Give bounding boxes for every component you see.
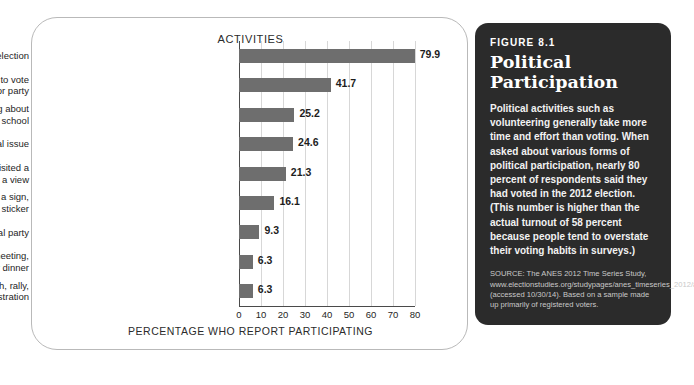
category-label: Wore a button, posted a sign,or displaye… bbox=[0, 191, 29, 214]
bar bbox=[239, 225, 259, 239]
bar-row: 9.3 bbox=[239, 225, 415, 239]
category-label: Attended a political rally, meeting,spee… bbox=[0, 250, 29, 273]
category-label-line: Wore a button, posted a sign, bbox=[0, 191, 29, 203]
bar-row: 25.2 bbox=[239, 108, 415, 122]
category-label: Signed a petition about a political or s… bbox=[0, 138, 29, 150]
category-label-line: an issue facing one's community or schoo… bbox=[0, 115, 29, 127]
x-axis-line bbox=[239, 306, 415, 307]
category-label-line: or demonstration bbox=[0, 291, 29, 303]
category-label-line: Attended a political rally, meeting, bbox=[0, 250, 29, 262]
figure-number: FIGURE 8.1 bbox=[490, 37, 656, 48]
bar-value-label: 9.3 bbox=[264, 224, 279, 236]
category-label-line: Signed a petition about a political or s… bbox=[0, 138, 29, 150]
bar-row: 21.3 bbox=[239, 167, 415, 181]
bar bbox=[239, 49, 415, 63]
bar-row: 16.1 bbox=[239, 196, 415, 210]
bar-value-label: 6.3 bbox=[258, 254, 273, 266]
category-label: Joined a protest march, rally,or demonst… bbox=[0, 280, 29, 303]
x-tick-50: 50 bbox=[344, 309, 355, 320]
x-tick-60: 60 bbox=[366, 309, 377, 320]
x-tick-30: 30 bbox=[300, 309, 311, 320]
bar bbox=[239, 284, 253, 298]
bar-value-label: 41.7 bbox=[336, 77, 356, 89]
gridline-80 bbox=[415, 41, 416, 306]
category-label-line: Joined a protest march, rally, bbox=[0, 280, 29, 292]
category-label: Attempted to persuade others to votefor … bbox=[0, 74, 29, 97]
x-tick-40: 40 bbox=[322, 309, 333, 320]
category-label: Voted in a general election bbox=[0, 50, 29, 62]
category-label-line: Attempted to persuade others to vote bbox=[0, 74, 29, 86]
figure-title-line-2: Participation bbox=[490, 72, 656, 92]
figure-title: Political Participation bbox=[490, 52, 656, 92]
figure-source-note: SOURCE: The ANES 2012 Time Series Study,… bbox=[490, 269, 656, 311]
category-label-line: for or against a candidate or party bbox=[0, 85, 29, 97]
x-tick-70: 70 bbox=[388, 309, 399, 320]
bar-row: 79.9 bbox=[239, 49, 415, 63]
bar-row: 6.3 bbox=[239, 255, 415, 269]
x-axis-tick-labels: 01020304050607080 bbox=[239, 309, 415, 323]
category-label-line: or displayed a bumper sticker bbox=[0, 203, 29, 215]
x-tick-0: 0 bbox=[236, 309, 241, 320]
bar-value-label: 21.3 bbox=[291, 166, 311, 178]
bar-row: 41.7 bbox=[239, 78, 415, 92]
category-label-line: Attended local community meeting about bbox=[0, 103, 29, 115]
bar bbox=[239, 78, 331, 92]
figure-body-text: Political activities such as volunteerin… bbox=[490, 102, 656, 258]
category-label-line: speech, or dinner bbox=[0, 262, 29, 274]
x-tick-20: 20 bbox=[278, 309, 289, 320]
bar-value-label: 6.3 bbox=[258, 283, 273, 295]
x-tick-10: 10 bbox=[256, 309, 267, 320]
bar bbox=[239, 167, 286, 181]
bar bbox=[239, 255, 253, 269]
bar bbox=[239, 196, 274, 210]
category-label: Telephoned, wrote a letter to, or visite… bbox=[0, 162, 29, 185]
bar-value-label: 16.1 bbox=[279, 195, 299, 207]
bar bbox=[239, 108, 294, 122]
category-label-line: government official to express a view bbox=[0, 174, 29, 186]
bar-row: 6.3 bbox=[239, 284, 415, 298]
x-axis-title: PERCENTAGE WHO REPORT PARTICIPATING bbox=[32, 325, 469, 337]
figure-title-line-1: Political bbox=[490, 52, 656, 72]
category-label-line: Donated money to a political party bbox=[0, 227, 29, 239]
figure-caption-panel: FIGURE 8.1 Political Participation Polit… bbox=[475, 23, 671, 325]
bar-chart-plot-area: 79.941.725.224.621.316.19.36.36.3 bbox=[239, 41, 415, 306]
bar-value-label: 24.6 bbox=[298, 136, 318, 148]
bar-row: 24.6 bbox=[239, 137, 415, 151]
category-label-line: Voted in a general election bbox=[0, 50, 29, 62]
bar-value-label: 25.2 bbox=[299, 107, 319, 119]
category-label-line: Telephoned, wrote a letter to, or visite… bbox=[0, 162, 29, 174]
bar bbox=[239, 137, 293, 151]
chart-card: ACTIVITIES 79.941.725.224.621.316.19.36.… bbox=[31, 17, 468, 350]
bar-value-label: 79.9 bbox=[420, 48, 440, 60]
category-label: Donated money to a political party bbox=[0, 227, 29, 239]
x-tick-80: 80 bbox=[410, 309, 421, 320]
category-label: Attended local community meeting aboutan… bbox=[0, 103, 29, 126]
